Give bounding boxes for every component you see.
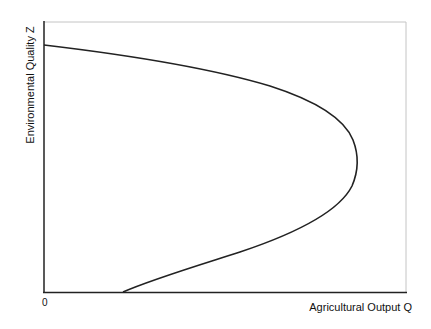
y-axis-label: Environmental Quality Z [24, 30, 36, 140]
x-axis-label: Agricultural Output Q [309, 301, 412, 313]
frontier-curve [44, 45, 357, 292]
origin-label: 0 [42, 297, 48, 308]
chart-canvas [0, 0, 431, 329]
